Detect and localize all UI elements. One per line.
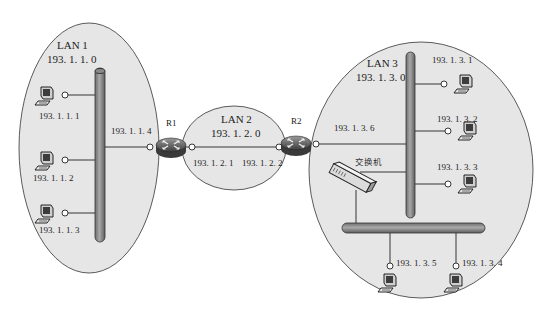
nic-connector [62,210,68,216]
r1-lan1-ip: 193. 1. 1. 4 [111,126,152,136]
router-r2[interactable] [281,136,311,156]
lan1-name: LAN 1 [57,39,88,51]
nic-connector [445,128,451,134]
nic-connector [189,144,195,150]
r2-lan3-ip: 193. 1. 3. 6 [334,123,375,133]
lan3-network: 193. 1. 3. 0 [356,71,406,83]
r2-label: R2 [291,116,302,126]
nic-connector [147,144,153,150]
network-diagram: LAN 1 193. 1. 1. 0 LAN 2 193. 1. 2. 0 LA… [0,0,548,314]
lan1-network: 193. 1. 1. 0 [47,53,97,65]
lan1-bus [95,68,105,242]
r1-lan2-ip: 193. 1. 2. 1 [193,158,234,168]
r2-lan2-ip: 193. 1. 2. 2 [242,158,283,168]
router-icon [156,138,186,158]
host-ip: 193. 1. 3. 4 [462,258,503,268]
host-ip: 193. 1. 3. 3 [437,162,478,172]
lan2-name: LAN 2 [221,113,252,125]
host-ip: 193. 1. 3. 2 [437,114,478,124]
nic-connector [313,141,319,147]
nic-connector [62,92,68,98]
host-ip: 193. 1. 3. 1 [432,55,473,65]
router-icon [281,136,311,156]
lan3-switch-bus [342,223,485,233]
nic-connector [62,157,68,163]
lan3-name: LAN 3 [367,57,398,69]
host-ip: 193. 1. 1. 3 [39,225,80,235]
nic-connector [453,263,459,269]
r1-label: R1 [166,118,177,128]
lan3-bus [406,52,415,218]
lan2-network: 193. 1. 2. 0 [211,127,261,139]
host-ip: 193. 1. 3. 5 [396,258,437,268]
nic-connector [441,81,447,87]
switch-label: 交换机 [355,157,382,167]
host-ip: 193. 1. 1. 2 [33,173,74,183]
router-r1[interactable] [156,138,186,158]
nic-connector [445,181,451,187]
nic-connector [387,263,393,269]
host-ip: 193. 1. 1. 1 [39,111,80,121]
